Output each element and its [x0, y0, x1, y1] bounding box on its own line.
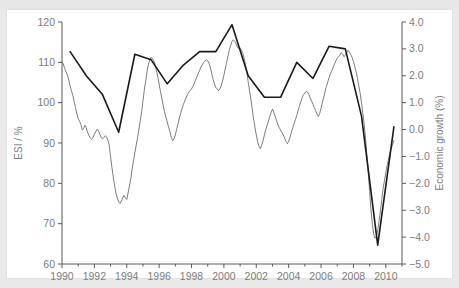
series-line-economic-growth	[70, 25, 394, 245]
x-tick-label: 2010	[374, 270, 398, 282]
x-tick-label: 2000	[212, 270, 236, 282]
left-tick-label: 120	[37, 16, 55, 28]
right-tick-label: −1.0	[409, 150, 430, 162]
chart-svg: 60708090100110120−5.0−4.0−3.0−2.0−1.00.0…	[0, 0, 459, 288]
x-tick-label: 1992	[83, 270, 107, 282]
x-tick-label: 1994	[115, 270, 139, 282]
right-tick-label: −2.0	[409, 177, 430, 189]
x-tick-label: 1990	[50, 270, 74, 282]
series-line-esi	[62, 40, 394, 238]
axis-titles: ESI / %Economic growth (%)	[13, 95, 445, 190]
left-tick-label: 60	[43, 258, 55, 270]
right-tick-label: 2.0	[409, 69, 424, 81]
right-tick-label: −3.0	[409, 204, 430, 216]
x-tick-label: 2008	[342, 270, 366, 282]
right-tick-label: −5.0	[409, 258, 430, 270]
left-tick-label: 110	[38, 56, 55, 68]
x-tick-label: 2004	[277, 270, 301, 282]
left-tick-label: 100	[37, 96, 55, 108]
right-tick-label: 0.0	[409, 123, 424, 135]
x-tick-label: 1998	[180, 270, 204, 282]
right-tick-label: 1.0	[409, 96, 424, 108]
x-tick-label: 1996	[147, 270, 171, 282]
right-axis-title: Economic growth (%)	[434, 95, 445, 190]
x-tick-label: 2006	[309, 270, 333, 282]
left-axis-title: ESI / %	[13, 126, 24, 159]
axes: 60708090100110120−5.0−4.0−3.0−2.0−1.00.0…	[37, 16, 429, 282]
right-tick-label: −4.0	[409, 231, 430, 243]
left-tick-label: 80	[43, 177, 55, 189]
left-tick-label: 70	[43, 217, 55, 229]
right-tick-label: 3.0	[409, 42, 424, 54]
data-series	[62, 25, 394, 245]
left-tick-label: 90	[43, 137, 55, 149]
right-tick-label: 4.0	[409, 16, 424, 28]
x-tick-label: 2002	[245, 270, 269, 282]
chart-figure: 60708090100110120−5.0−4.0−3.0−2.0−1.00.0…	[0, 0, 459, 288]
